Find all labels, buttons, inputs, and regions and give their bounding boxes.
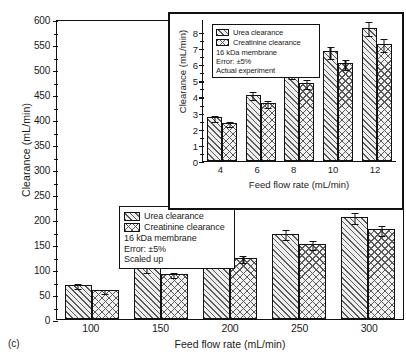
y-minor-tick-mark [200, 41, 204, 42]
y-tick-label: 600 [18, 15, 50, 26]
bar-urea [284, 73, 299, 161]
main-legend-row-creatinine: Creatinine clearance [124, 222, 230, 232]
error-bar [226, 122, 233, 128]
y-tick-label: 1 [184, 140, 198, 151]
inset-x-tick-labels: 4681012 [202, 164, 396, 178]
x-tick-label: 100 [82, 322, 99, 338]
urea-swatch-icon [216, 29, 229, 36]
x-tick-label: 4 [218, 164, 223, 178]
urea-swatch-icon [124, 212, 140, 221]
bar-creatinine [299, 83, 314, 161]
y-minor-tick-mark [200, 106, 204, 107]
y-minor-tick-mark [54, 234, 58, 235]
error-bar [327, 47, 334, 60]
y-minor-tick-mark [200, 89, 204, 90]
creatinine-swatch-icon [124, 223, 140, 232]
y-tick-label: 100 [18, 265, 50, 276]
error-bar [309, 241, 316, 251]
main-legend: Urea clearance Creatinine clearance 16 k… [119, 206, 235, 269]
y-tick-mark [199, 97, 204, 98]
y-tick-label: 400 [18, 115, 50, 126]
panel-label: (c) [8, 338, 20, 349]
error-bar [282, 230, 289, 241]
error-bar [366, 22, 373, 37]
y-tick-label: 6 [184, 60, 198, 71]
y-minor-tick-mark [54, 59, 58, 60]
y-tick-label: 200 [18, 215, 50, 226]
x-tick-label: 150 [152, 322, 169, 338]
main-note-membrane: 16 kDa membrane [124, 233, 230, 244]
bar-urea [65, 285, 92, 319]
y-minor-tick-mark [54, 259, 58, 260]
y-minor-tick-mark [200, 138, 204, 139]
y-tick-mark [53, 296, 58, 297]
y-tick-label: 0 [18, 315, 50, 326]
y-minor-tick-mark [200, 57, 204, 58]
y-tick-label: 50 [18, 290, 50, 301]
inset-figure: Clearance (mL/min) 012345678 Urea cleara… [168, 12, 404, 210]
y-tick-label: 500 [18, 65, 50, 76]
y-tick-mark [53, 196, 58, 197]
y-minor-tick-mark [54, 109, 58, 110]
figure-panel-c: Clearance (mL/min) 050100150200250300350… [0, 0, 406, 362]
inset-legend-label-creatinine: Creatinine clearance [233, 38, 301, 47]
y-minor-tick-mark [54, 84, 58, 85]
y-minor-tick-mark [54, 34, 58, 35]
bar-urea [246, 95, 261, 161]
y-minor-tick-mark [54, 134, 58, 135]
x-tick-label: 10 [328, 164, 339, 178]
y-tick-label: 7 [184, 44, 198, 55]
y-tick-label: 150 [18, 240, 50, 251]
inset-legend-row-urea: Urea clearance [216, 28, 316, 37]
main-y-tick-labels: 050100150200250300350400450500550600 [18, 15, 50, 325]
y-minor-tick-mark [200, 122, 204, 123]
main-legend-label-urea: Urea clearance [144, 211, 204, 221]
y-tick-label: 4 [184, 92, 198, 103]
y-minor-tick-mark [54, 159, 58, 160]
bar-creatinine [299, 244, 326, 319]
y-tick-label: 8 [184, 27, 198, 38]
main-legend-row-urea: Urea clearance [124, 211, 230, 221]
main-note-condition: Scaled up [124, 254, 230, 265]
y-tick-label: 550 [18, 40, 50, 51]
bar-creatinine [377, 44, 392, 161]
error-bar [303, 80, 310, 90]
inset-x-axis-label: Feed flow rate (mL/min) [202, 179, 396, 190]
bar-creatinine [338, 63, 353, 161]
y-tick-label: 300 [18, 165, 50, 176]
x-tick-label: 300 [361, 322, 378, 338]
y-minor-tick-mark [54, 209, 58, 210]
y-minor-tick-mark [54, 309, 58, 310]
bar-creatinine [92, 290, 119, 319]
y-tick-mark [199, 49, 204, 50]
main-x-axis-label: Feed flow rate (mL/min) [56, 338, 404, 350]
inset-legend-label-urea: Urea clearance [233, 28, 283, 37]
bar-urea [272, 234, 299, 320]
creatinine-swatch-icon [216, 39, 229, 46]
y-tick-mark [53, 21, 58, 22]
main-note-error: Error: ±5% [124, 244, 230, 255]
y-tick-mark [53, 96, 58, 97]
x-tick-label: 8 [291, 164, 296, 178]
inset-legend-row-creatinine: Creatinine clearance [216, 38, 316, 47]
bar-creatinine [368, 229, 395, 319]
y-tick-label: 3 [184, 108, 198, 119]
y-tick-label: 2 [184, 124, 198, 135]
inset-note-membrane: 16 kDa membrane [216, 48, 316, 57]
y-tick-mark [53, 146, 58, 147]
y-tick-label: 450 [18, 90, 50, 101]
error-bar [211, 116, 218, 122]
error-bar [351, 213, 358, 225]
y-tick-mark [53, 46, 58, 47]
main-x-tick-labels: 100150200250300 [56, 322, 404, 338]
y-tick-mark [53, 171, 58, 172]
bar-urea [323, 51, 338, 161]
y-minor-tick-mark [54, 284, 58, 285]
bar-urea [341, 217, 368, 319]
y-tick-mark [199, 146, 204, 147]
bar-creatinine [222, 123, 237, 161]
error-bar [381, 39, 388, 53]
y-tick-label: 250 [18, 190, 50, 201]
y-tick-mark [199, 33, 204, 34]
y-tick-mark [199, 130, 204, 131]
